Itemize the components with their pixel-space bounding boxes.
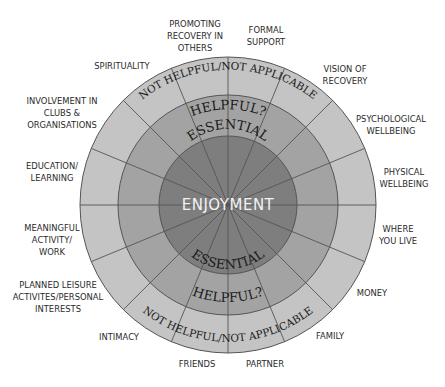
segment-label-money: MONEY bbox=[357, 287, 388, 299]
segment-label-formal-support: FORMAL SUPPORT bbox=[247, 24, 285, 48]
wheel-graphic: NOT HELPFUL/NOT APPLICABLE NOT HELPFUL/N… bbox=[0, 0, 445, 387]
segment-label-vision-of-recovery: VISION OF RECOVERY bbox=[323, 63, 368, 87]
segment-label-friends: FRIENDS bbox=[179, 358, 215, 370]
segment-label-spirituality: SPIRITUALITY bbox=[94, 60, 149, 72]
segment-label-involvement-clubs: INVOLVEMENT IN CLUBS & ORGANISATIONS bbox=[27, 95, 98, 131]
recovery-wheel-diagram: NOT HELPFUL/NOT APPLICABLE NOT HELPFUL/N… bbox=[0, 0, 445, 387]
segment-label-intimacy: INTIMACY bbox=[99, 331, 139, 343]
segment-label-partner: PARTNER bbox=[246, 358, 284, 370]
segment-label-promoting-recovery: PROMOTING RECOVERY IN OTHERS bbox=[167, 18, 223, 54]
segment-label-planned-leisure: PLANNED LEISURE ACTIVITES/PERSONAL INTER… bbox=[13, 279, 104, 315]
segment-label-education-learning: EDUCATION/ LEARNING bbox=[26, 160, 78, 184]
center-label-enjoyment: ENJOYMENT bbox=[182, 196, 275, 214]
segment-label-psychological-wellbeing: PSYCHOLOGICAL WELLBEING bbox=[356, 113, 426, 137]
segment-label-meaningful-activity: MEANINGFUL ACTIVITY/ WORK bbox=[24, 222, 79, 258]
segment-label-family: FAMILY bbox=[316, 330, 344, 342]
segment-label-physical-wellbeing: PHYSICAL WELLBEING bbox=[379, 166, 428, 190]
segment-label-where-you-live: WHERE YOU LIVE bbox=[379, 223, 417, 247]
